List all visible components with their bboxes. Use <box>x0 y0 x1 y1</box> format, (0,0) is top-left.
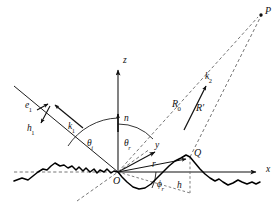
angle-arc-theta-r <box>118 124 153 139</box>
y-axis <box>118 152 155 172</box>
ray-Q-to-P-dashed <box>190 16 261 157</box>
e1-sub: 1 <box>29 106 32 113</box>
scattering-geometry-figure: z x y n O P Q k1 e1 h1 k2 r θi θr ϕr R0 … <box>0 0 279 219</box>
z-axis-label: z <box>123 56 127 66</box>
incident-efield-label: e1 <box>25 101 32 112</box>
ray-origin-to-P-dashed <box>118 17 258 172</box>
incident-wavevector-label: k1 <box>68 122 75 133</box>
k1-sub: 1 <box>72 127 75 134</box>
point-distance-label: R′ <box>196 103 204 113</box>
theta-r-sub: r <box>128 144 131 151</box>
h1-sub: 1 <box>31 129 34 136</box>
k2-sub: 2 <box>209 77 212 84</box>
phi-r-sub: r <box>161 185 164 192</box>
y-axis-label: y <box>155 141 159 151</box>
scattered-wavevector-label: k2 <box>205 72 212 83</box>
incident-hfield-label: h1 <box>27 124 35 135</box>
origin-label: O <box>113 176 120 186</box>
angle-theta-i-label: θi <box>87 139 93 150</box>
angle-theta-r-label: θr <box>124 139 131 150</box>
point-Q-label: Q <box>194 148 201 158</box>
theta-i-sub: i <box>91 144 93 151</box>
angle-phi-r-label: ϕr <box>157 180 164 191</box>
figure-canvas <box>0 0 279 219</box>
R0-sub: 0 <box>178 105 181 112</box>
reference-distance-label: R0 <box>172 99 182 112</box>
point-P-marker <box>259 13 262 16</box>
x-axis-label: x <box>266 165 270 175</box>
height-label: h <box>177 181 182 191</box>
point-P-label: P <box>265 6 271 16</box>
position-vector-label: r <box>152 160 156 170</box>
surface-normal-label: n <box>124 114 129 124</box>
